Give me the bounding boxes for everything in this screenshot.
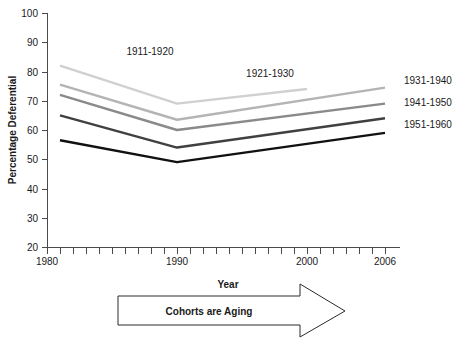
series-line-1941-1950 bbox=[60, 115, 385, 147]
cohorts-aging-arrow: Cohorts are Aging bbox=[118, 284, 345, 337]
y-tick-label: 80 bbox=[27, 67, 39, 78]
series-line-1951-1960 bbox=[60, 133, 385, 162]
x-axis-tick-labels: 1980 1990 2000 2006 bbox=[36, 256, 397, 267]
x-tick-label: 1990 bbox=[166, 256, 189, 267]
y-tick-label: 60 bbox=[27, 125, 39, 136]
y-tick-label: 20 bbox=[27, 242, 39, 253]
y-tick-label: 40 bbox=[27, 184, 39, 195]
y-axis-tick-labels: 20 30 40 50 60 70 80 90 100 bbox=[21, 8, 38, 253]
data-series-group bbox=[60, 66, 385, 163]
series-annotation-1921-1930: 1921-1930 bbox=[246, 68, 294, 79]
chart-figure: 20 30 40 50 60 70 80 90 100 1980 1990 20… bbox=[0, 0, 460, 338]
x-tick-label: 2006 bbox=[374, 256, 397, 267]
x-axis-ticks bbox=[47, 248, 385, 254]
y-tick-label: 50 bbox=[27, 154, 39, 165]
y-tick-label: 70 bbox=[27, 96, 39, 107]
x-tick-label: 2000 bbox=[296, 256, 319, 267]
legend-label-1951-1960: 1951-1960 bbox=[404, 119, 452, 130]
y-axis-title: Percentage Deferential bbox=[7, 76, 18, 185]
y-tick-label: 30 bbox=[27, 213, 39, 224]
x-tick-label: 1980 bbox=[36, 256, 59, 267]
chart-canvas: 20 30 40 50 60 70 80 90 100 1980 1990 20… bbox=[0, 0, 460, 338]
y-axis-ticks bbox=[42, 14, 48, 248]
x-axis-title: Year bbox=[217, 279, 238, 290]
series-line-1921-1930 bbox=[60, 85, 385, 120]
legend: 1931-1940 1941-1950 1951-1960 bbox=[404, 75, 452, 130]
y-tick-label: 100 bbox=[21, 8, 38, 19]
arrow-banner-label: Cohorts are Aging bbox=[166, 306, 253, 317]
legend-label-1931-1940: 1931-1940 bbox=[404, 75, 452, 86]
legend-label-1941-1950: 1941-1950 bbox=[404, 97, 452, 108]
series-annotation-1911-1920: 1911-1920 bbox=[126, 46, 174, 57]
y-tick-label: 90 bbox=[27, 37, 39, 48]
